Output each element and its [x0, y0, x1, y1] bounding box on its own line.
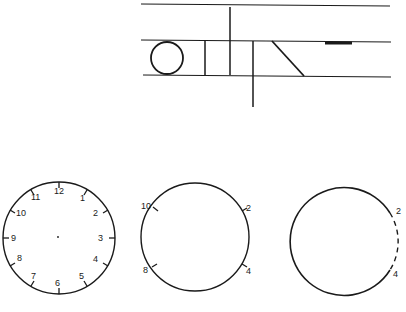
diagonal-stroke [272, 41, 304, 76]
clock-number: 4 [246, 266, 251, 276]
clock-number: 7 [31, 271, 36, 281]
clock-number: 4 [93, 254, 98, 264]
guide-line-bottom [143, 75, 391, 77]
clock-number: 2 [93, 208, 98, 218]
clock-number: 4 [393, 269, 398, 279]
clock-number: 8 [17, 253, 22, 263]
diagram-canvas: 12 1 2 3 4 5 6 7 8 9 10 11 10 2 8 4 2 4 [0, 0, 406, 312]
dashed-clock [290, 187, 398, 295]
clock-number: 10 [141, 201, 151, 211]
partial-clock: 10 2 8 4 [141, 183, 251, 291]
clock-number: 2 [246, 203, 251, 213]
clock-number: 8 [143, 265, 148, 275]
clock-number: 2 [396, 206, 401, 216]
clock-number: 6 [55, 278, 60, 288]
clock-number: 12 [54, 186, 64, 196]
clock-number: 11 [31, 192, 40, 202]
clock-number: 5 [79, 271, 84, 281]
full-clock: 12 1 2 3 4 5 6 7 8 9 10 11 [3, 182, 115, 294]
guide-line-middle [141, 40, 391, 42]
top-panel [141, 4, 391, 107]
clock-number: 3 [98, 233, 103, 243]
clock-number: 9 [11, 233, 16, 243]
guide-line-top [141, 4, 390, 6]
clock-number: 1 [80, 193, 85, 203]
center-dot [57, 236, 59, 238]
circle-shape [151, 42, 183, 74]
clock-number: 10 [16, 208, 26, 218]
